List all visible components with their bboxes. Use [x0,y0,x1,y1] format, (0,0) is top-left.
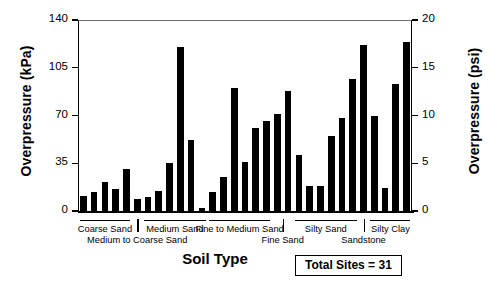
right-axis-tick-label: 15 [422,60,462,72]
right-axis-tick [412,115,418,116]
right-axis-tick [412,67,418,68]
bar [285,91,292,211]
bar [112,189,119,211]
group-bracket [295,220,357,221]
bar [188,140,195,211]
right-axis-tick-label: 5 [422,155,462,167]
group-bracket [370,220,410,221]
bar [328,136,335,211]
bar [252,128,259,211]
bar [339,118,346,211]
bar [166,163,173,211]
left-axis-tick-label: 70 [28,108,68,120]
bar [263,121,270,211]
bar [80,196,87,211]
bar [371,116,378,212]
right-axis-tick-label: 20 [422,12,462,24]
bar [360,45,367,211]
x-axis-baseline [78,211,414,213]
right-axis-title: Overpressure (psi) [466,26,482,196]
left-axis-tick-label: 105 [28,60,68,72]
right-axis-tick-label: 0 [422,203,462,215]
group-label: Silty Clay [330,224,450,234]
group-bracket [209,220,271,221]
bar [242,162,249,211]
right-axis-tick [412,210,418,211]
bar [403,42,410,211]
bar [382,188,389,211]
bar [123,169,130,211]
group-label: Medium to Coarse Sand [77,235,197,245]
x-axis-title: Soil Type [155,250,275,267]
bar [231,88,238,211]
bar [296,155,303,211]
total-sites-annotation: Total Sites = 31 [295,255,402,276]
bar [177,47,184,211]
bar [306,186,313,211]
left-axis-tick-label: 0 [28,203,68,215]
bar-series [78,20,412,211]
bar [102,182,109,211]
bar [199,208,206,211]
bar [134,199,141,211]
bar [91,192,98,211]
left-axis-tick-label: 140 [28,12,68,24]
right-axis-tick [412,163,418,164]
bar [349,79,356,211]
bar [392,84,399,211]
left-axis-tick-label: 35 [28,155,68,167]
right-axis-tick-label: 10 [422,108,462,120]
group-label: Sandstone [304,235,424,245]
bar [209,192,216,211]
bar [274,114,281,211]
bar [220,177,227,211]
bar [155,191,162,211]
group-bracket [144,220,206,221]
bar [317,186,324,211]
group-bracket [80,220,131,221]
right-axis-tick [412,19,418,20]
overpressure-by-soil-type-chart: Overpressure (kPa) Overpressure (psi) 03… [0,0,492,283]
bar [145,197,152,211]
